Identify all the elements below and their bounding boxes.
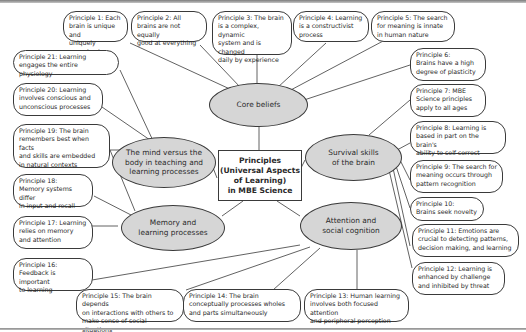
principle-16: Principle 16: Feedback is important to l… (13, 258, 93, 291)
principle-19: Principle 19: The brain remembers best w… (13, 124, 110, 168)
principle-18: Principle 18: Memory systems differ in i… (13, 174, 93, 207)
principle-20: Principle 20: Learning involves consciou… (13, 83, 103, 116)
category-attention-social: Attention and social cognition (300, 202, 402, 250)
principle-4: Principle 4: Learning is a constructivis… (293, 11, 369, 42)
principle-17: Principle 17: Learning relies on memory … (13, 216, 93, 249)
principle-3: Principle 3: The brain is a complex, dyn… (212, 11, 292, 55)
principle-9: Principle 9: The search for meaning occu… (410, 160, 503, 193)
principle-6: Principle 6: Brains have a high degree o… (410, 48, 486, 81)
principle-12: Principle 12: Learning is enhanced by ch… (412, 262, 505, 295)
principle-14: Principle 14: The brain conceptually pro… (183, 289, 301, 322)
category-core-beliefs: Core beliefs (209, 83, 308, 127)
category-mind-versus-body: The mind versus the body in teaching and… (112, 137, 216, 188)
principle-1: Principle 1: Each brain is unique and un… (63, 11, 128, 42)
principle-21: Principle 21: Learning engages the entir… (13, 50, 119, 75)
principle-5: Principle 5: The search for meaning is i… (371, 11, 455, 42)
bottom-rule (0, 328, 526, 330)
principle-7: Principle 7: MBE Science principles appl… (410, 84, 486, 117)
category-memory-learning: Memory and learning processes (121, 205, 225, 251)
principle-2: Principle 2: All brains are not equally … (131, 11, 207, 42)
principle-8: Principle 8: Learning is based in part o… (410, 121, 506, 154)
category-survival-skills: Survival skills of the brain (305, 134, 402, 181)
principle-15: Principle 15: The brain depends on inter… (76, 289, 184, 322)
center-node-principles: Principles (Universal Aspects of Learnin… (218, 150, 302, 201)
principle-10: Principle 10: Brains seek novelty (410, 197, 484, 221)
principle-11: Principle 11: Emotions are crucial to de… (412, 224, 519, 257)
principle-13: Principle 13: Human learning involves bo… (304, 289, 409, 322)
